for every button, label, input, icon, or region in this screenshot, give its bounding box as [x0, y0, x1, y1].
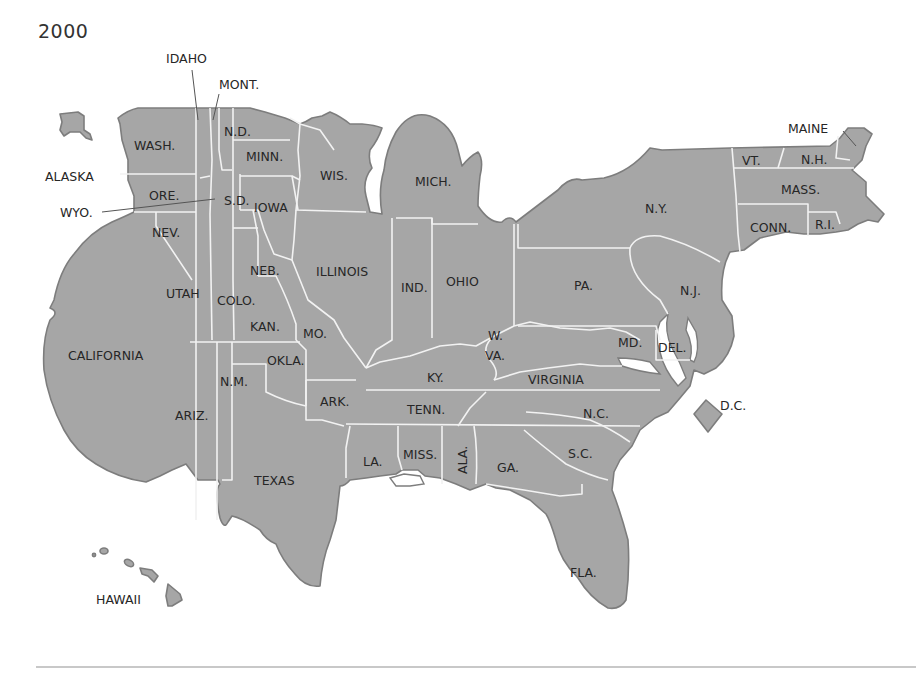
label-mississippi: MISS.: [403, 447, 437, 462]
label-nevada: NEV.: [152, 225, 180, 240]
label-pennsylvania: PA.: [574, 278, 593, 293]
bottom-divider: [36, 666, 916, 668]
label-nebraska: NEB.: [250, 263, 280, 278]
label-new-hampshire: N.H.: [801, 152, 827, 167]
label-new-jersey: N.J.: [680, 283, 701, 298]
label-vermont: VT.: [742, 153, 761, 168]
label-south-dakota: S.D.: [224, 193, 250, 208]
label-georgia: GA.: [497, 460, 519, 475]
label-iowa: IOWA: [254, 200, 288, 215]
label-ohio: OHIO: [446, 274, 479, 289]
label-oklahoma: OKLA.: [267, 353, 305, 368]
label-rhode-island: R.I.: [815, 217, 835, 232]
label-west-virginia-va: VA.: [485, 348, 505, 363]
label-dc: D.C.: [720, 398, 746, 413]
label-massachusetts: MASS.: [781, 182, 820, 197]
label-kentucky: KY.: [427, 370, 444, 385]
label-north-dakota: N.D.: [224, 124, 251, 139]
label-maine: MAINE: [788, 121, 828, 136]
label-washington: WASH.: [134, 138, 175, 153]
gulf-bay: [390, 474, 424, 486]
label-texas: TEXAS: [253, 473, 295, 488]
label-hawaii: HAWAII: [96, 592, 141, 607]
label-florida: FLA.: [570, 565, 597, 580]
label-california: CALIFORNIA: [68, 348, 144, 363]
label-arkansas: ARK.: [320, 394, 349, 409]
label-oregon: ORE.: [149, 188, 179, 203]
mainland-usa: [44, 108, 884, 608]
label-maryland: MD.: [618, 335, 642, 350]
label-michigan: MICH.: [415, 174, 451, 189]
label-south-carolina: S.C.: [568, 446, 593, 461]
label-montana: MONT.: [219, 77, 259, 92]
label-kansas: KAN.: [250, 319, 280, 334]
label-missouri: MO.: [303, 326, 327, 341]
label-west-virginia-w: W.: [488, 328, 503, 343]
label-connecticut: CONN.: [750, 220, 791, 235]
alaska-shape: [60, 112, 92, 140]
label-new-york: N.Y.: [645, 201, 667, 216]
label-illinois: ILLINOIS: [316, 264, 368, 279]
label-alaska: ALASKA: [45, 169, 94, 184]
label-north-carolina: N.C.: [583, 406, 609, 421]
label-arizona: ARIZ.: [175, 408, 208, 423]
dc-shape: [694, 400, 722, 432]
label-louisiana: LA.: [363, 454, 383, 469]
label-indiana: IND.: [401, 280, 428, 295]
label-idaho: IDAHO: [166, 51, 207, 66]
label-tennessee: TENN.: [406, 402, 445, 417]
label-new-mexico: N.M.: [220, 374, 248, 389]
label-wisconsin: WIS.: [320, 168, 348, 183]
label-wyoming: WYO.: [60, 205, 93, 220]
label-alabama: ALA.: [455, 446, 470, 474]
label-colorado: COLO.: [217, 293, 255, 308]
label-minnesota: MINN.: [246, 149, 283, 164]
label-utah: UTAH: [166, 286, 200, 301]
label-delaware: DEL.: [658, 340, 686, 355]
label-virginia: VIRGINIA: [528, 372, 584, 387]
cartogram-map: IDAHO MONT. WASH. N.D. MINN. WIS. MICH. …: [0, 0, 916, 679]
